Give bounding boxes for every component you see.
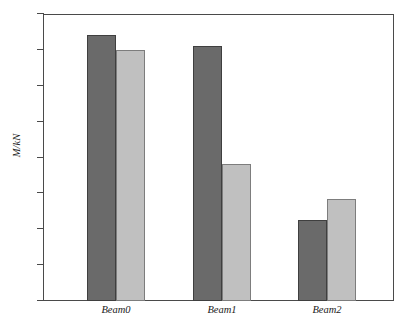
x-tick-label: Beam0 [71, 304, 161, 316]
x-tick-label: Beam1 [177, 304, 267, 316]
bar [193, 46, 222, 301]
bar [116, 50, 145, 301]
bar [298, 220, 327, 301]
bar [327, 199, 356, 301]
bar-chart-figure: 0246810121416 M/kN Beam0Beam1Beam2 [0, 0, 408, 325]
y-axis-title: M/kN [11, 116, 22, 176]
bar [222, 164, 251, 301]
x-tick-label: Beam2 [282, 304, 372, 316]
bar [87, 35, 116, 301]
